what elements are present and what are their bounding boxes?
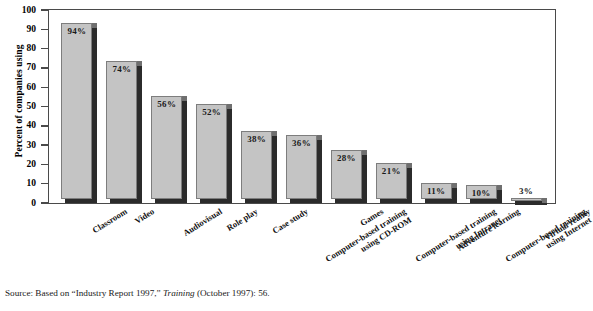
bar-top-bevel [227, 104, 232, 109]
bar-side-shadow [407, 168, 412, 203]
y-axis-tick-mark [41, 67, 48, 68]
bar-side-shadow [92, 28, 97, 203]
bar: 94% [61, 23, 97, 203]
bar-top-bevel [272, 131, 277, 136]
bar-bottom-shadow [470, 199, 502, 203]
plot-area: 94%74%56%52%38%36%28%21%11%10%3% [48, 9, 556, 204]
source-suffix: (October 1997): 56. [195, 288, 270, 298]
x-axis-category-label: Audiovisual [182, 207, 224, 238]
bar-bottom-shadow [425, 199, 457, 203]
bar: 38% [241, 131, 277, 203]
x-axis-category-label: Case study [271, 207, 310, 236]
bar-value-label: 38% [241, 134, 272, 144]
bar: 10% [466, 185, 502, 203]
y-axis-tick-mark [41, 48, 48, 49]
x-axis-category-label: Role play [225, 207, 259, 233]
bar-value-label: 74% [106, 64, 137, 74]
y-axis-tick-mark [41, 144, 48, 145]
source-prefix: Source: Based on “Industry Report 1997,” [5, 288, 163, 298]
bar-value-label: 10% [466, 188, 497, 198]
bar-value-label: 52% [196, 107, 227, 117]
bar-face [196, 104, 227, 199]
y-axis-tick-mark [41, 9, 48, 10]
bar-face [151, 96, 182, 199]
bar: 3% [511, 198, 547, 205]
bar-bottom-shadow [245, 199, 277, 203]
bar-side-shadow [137, 66, 142, 203]
y-axis-tick-label: 30 [0, 138, 36, 152]
bar: 74% [106, 61, 142, 203]
bar-top-bevel [317, 135, 322, 140]
y-axis-tick-mark [41, 202, 48, 203]
y-axis-tick-label: 70 [0, 60, 36, 74]
bar-side-shadow [227, 109, 232, 203]
y-axis-tick-label: 40 [0, 118, 36, 132]
bar-top-bevel [452, 183, 457, 188]
bar-bottom-shadow [380, 199, 412, 203]
bar-top-bevel [542, 198, 547, 203]
x-axis-category-label-line: Case study [271, 207, 310, 236]
bar-value-label: 56% [151, 99, 182, 109]
bar-bottom-shadow [200, 199, 232, 203]
x-axis-category-label-line: Role play [225, 207, 259, 233]
y-axis-tick-mark [41, 87, 48, 88]
bar: 21% [376, 163, 412, 203]
bar-side-shadow [362, 155, 367, 203]
bar-top-bevel [497, 185, 502, 190]
bar: 11% [421, 183, 457, 203]
bar-bottom-shadow [335, 199, 367, 203]
y-axis-tick-label: 20 [0, 157, 36, 171]
bar-bottom-shadow [155, 199, 187, 203]
source-italic-title: Training [163, 288, 195, 298]
bar-top-bevel [362, 150, 367, 155]
bar-value-label: 94% [61, 26, 92, 36]
y-axis-tick-label: 50 [0, 99, 36, 113]
x-axis-category-label: Classroom [91, 207, 129, 236]
y-axis-tick-mark [41, 164, 48, 165]
y-axis-tick-label: 90 [0, 22, 36, 36]
y-axis-tick-mark [41, 29, 48, 30]
bar-side-shadow [272, 136, 277, 203]
y-axis-tick-label: 100 [0, 3, 36, 17]
bar: 52% [196, 104, 232, 203]
y-axis-tick-label: 0 [0, 196, 36, 210]
bar-bottom-shadow [290, 199, 322, 203]
bar-top-bevel [92, 23, 97, 28]
bar-bottom-shadow [110, 199, 142, 203]
y-axis-tick-mark [41, 125, 48, 126]
x-axis-category-label-line: Classroom [91, 207, 129, 236]
bar-value-label: 3% [511, 186, 542, 196]
bar-value-label: 11% [421, 186, 452, 196]
bar: 56% [151, 96, 187, 203]
x-axis-category-label: Video [134, 207, 157, 226]
bar-value-label: 36% [286, 138, 317, 148]
bar-side-shadow [317, 140, 322, 203]
bar-top-bevel [137, 61, 142, 66]
x-axis-category-label: Computer-based trainingusing Intranet [414, 207, 503, 273]
bar-top-bevel [182, 96, 187, 101]
bar: 36% [286, 135, 322, 203]
bar-side-shadow [182, 101, 187, 203]
bar-bottom-shadow [65, 199, 97, 203]
bar-face [106, 61, 137, 199]
x-axis-category-label-line: Audiovisual [182, 207, 224, 238]
bar: 28% [331, 150, 367, 203]
y-axis-tick-mark [41, 106, 48, 107]
x-axis-category-label-line: Video [134, 207, 157, 226]
y-axis-tick-label: 10 [0, 176, 36, 190]
y-axis-tick-label: 80 [0, 41, 36, 55]
bar-value-label: 21% [376, 166, 407, 176]
source-note: Source: Based on “Industry Report 1997,”… [5, 288, 270, 298]
bar-face [61, 23, 92, 199]
bar-top-bevel [407, 163, 412, 168]
bar-value-label: 28% [331, 153, 362, 163]
y-axis-tick-label: 60 [0, 80, 36, 94]
y-axis-tick-mark [41, 183, 48, 184]
